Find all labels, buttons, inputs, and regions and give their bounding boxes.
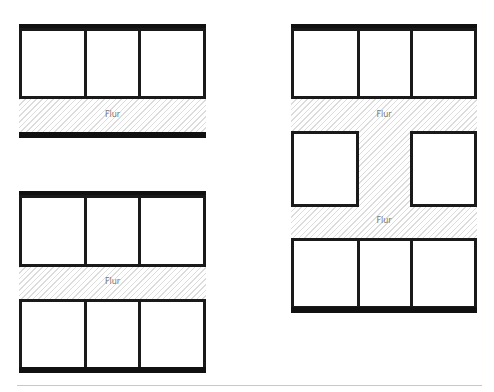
bottom-wall [19,367,206,373]
room [84,28,141,99]
bottom-wall [291,307,477,313]
corridor-label: Flur [291,110,477,119]
room [84,299,141,370]
room [291,238,360,309]
corridor-label: Flur [19,277,206,286]
corridor-label: Flur [291,216,477,225]
room [138,299,206,370]
corridor-label: Flur [19,110,206,119]
bottom-wall [19,132,206,138]
corridor: Flur [19,267,206,299]
room [291,28,360,99]
room [84,195,141,267]
room [138,28,206,99]
room [410,28,477,99]
room [357,28,413,99]
room [410,238,477,309]
room [357,238,413,309]
room [19,195,87,267]
room [19,299,87,370]
corridor: Flur [19,99,206,132]
room [19,28,87,99]
room [410,131,477,207]
room [291,131,359,207]
room [138,195,206,267]
divider-line [17,385,482,386]
